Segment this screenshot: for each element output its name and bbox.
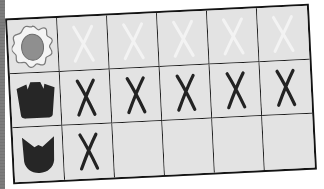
- row-2-mark-5: [260, 60, 313, 116]
- row-1-mark-2: [107, 13, 160, 69]
- row-2-mark-3: [160, 65, 213, 121]
- x-mark: [221, 69, 249, 110]
- faint-x-mark: [119, 20, 147, 61]
- faint-x-mark: [169, 18, 197, 59]
- row-3-mark-5: [262, 114, 315, 170]
- row-3-mark-4: [212, 116, 265, 172]
- row-2-icon-cell: [10, 72, 63, 128]
- row-1-mark-1: [57, 16, 110, 72]
- x-mark: [272, 67, 300, 108]
- row-1-mark-3: [157, 11, 210, 67]
- row-1-icon-cell: [7, 18, 60, 74]
- faint-x-mark: [219, 15, 247, 56]
- x-mark: [72, 77, 100, 118]
- binding-strip: [0, 0, 5, 189]
- flower-icon: [10, 22, 56, 70]
- x-mark: [171, 72, 199, 113]
- row-2-mark-1: [60, 69, 113, 125]
- row-3-mark-3: [162, 119, 215, 175]
- shield-cup-icon: [19, 132, 57, 176]
- tally-grid: [5, 4, 317, 185]
- x-mark: [74, 131, 102, 172]
- row-1-mark-5: [257, 6, 310, 62]
- row-3-mark-1: [62, 123, 115, 179]
- tally-board: [5, 4, 317, 185]
- row-2-mark-2: [110, 67, 163, 123]
- faint-x-mark: [269, 13, 297, 54]
- row-3-icon-cell: [12, 126, 65, 182]
- row-1-mark-4: [207, 8, 260, 64]
- row-3-mark-2: [112, 121, 165, 177]
- x-mark: [122, 74, 150, 115]
- row-2-mark-4: [210, 62, 263, 118]
- crown-cup-icon: [14, 79, 58, 121]
- faint-x-mark: [69, 23, 97, 64]
